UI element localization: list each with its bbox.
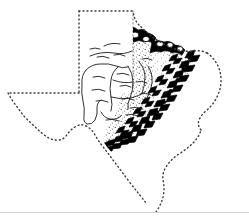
figure-root bbox=[0, 0, 249, 224]
caption-divider-rule bbox=[0, 212, 249, 213]
texas-map-drawing bbox=[0, 0, 249, 224]
